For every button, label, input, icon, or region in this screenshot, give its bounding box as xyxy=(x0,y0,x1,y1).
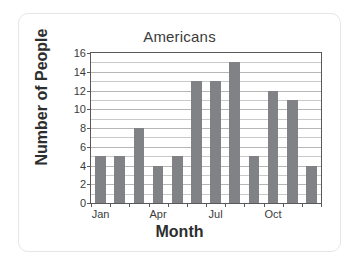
x-tick-label: Apr xyxy=(150,208,167,220)
y-tick-label: 12 xyxy=(74,85,86,97)
y-tick-label: 16 xyxy=(74,47,86,59)
chart-card: Americans Number of People 0246810121416… xyxy=(18,13,341,252)
y-tick-label: 4 xyxy=(80,160,86,172)
x-tick-mark xyxy=(149,203,150,207)
x-tick-mark xyxy=(225,203,226,207)
y-tick-mark xyxy=(87,53,91,54)
x-tick-mark xyxy=(91,203,92,207)
x-axis-label: Month xyxy=(19,223,340,241)
y-tick-label: 14 xyxy=(74,66,86,78)
y-tick-mark xyxy=(87,166,91,167)
y-tick-label: 0 xyxy=(80,197,86,209)
x-tick-label: Jul xyxy=(209,208,223,220)
y-tick-mark xyxy=(87,128,91,129)
x-tick-mark xyxy=(129,203,130,207)
plot-area: 0246810121416 JanAprJulOct xyxy=(90,52,322,204)
y-tick-mark xyxy=(87,91,91,92)
x-tick-mark xyxy=(321,203,322,207)
x-tick-mark xyxy=(244,203,245,207)
x-tick-mark xyxy=(110,203,111,207)
y-axis-label: Number of People xyxy=(33,12,51,182)
y-tick-label: 2 xyxy=(80,178,86,190)
y-tick-mark xyxy=(87,147,91,148)
y-tick-mark xyxy=(87,72,91,73)
y-tick-mark xyxy=(87,184,91,185)
y-tick-label: 10 xyxy=(74,103,86,115)
x-tick-mark xyxy=(283,203,284,207)
x-tick-mark xyxy=(187,203,188,207)
chart-title: Americans xyxy=(19,28,340,45)
y-tick-label: 6 xyxy=(80,141,86,153)
x-tick-mark xyxy=(302,203,303,207)
x-tick-mark xyxy=(264,203,265,207)
x-tick-label: Jan xyxy=(92,208,110,220)
x-tick-label: Oct xyxy=(265,208,282,220)
y-axis-ticks: 0246810121416 xyxy=(91,53,321,203)
x-tick-mark xyxy=(168,203,169,207)
x-tick-mark xyxy=(206,203,207,207)
y-tick-mark xyxy=(87,109,91,110)
y-tick-label: 8 xyxy=(80,122,86,134)
